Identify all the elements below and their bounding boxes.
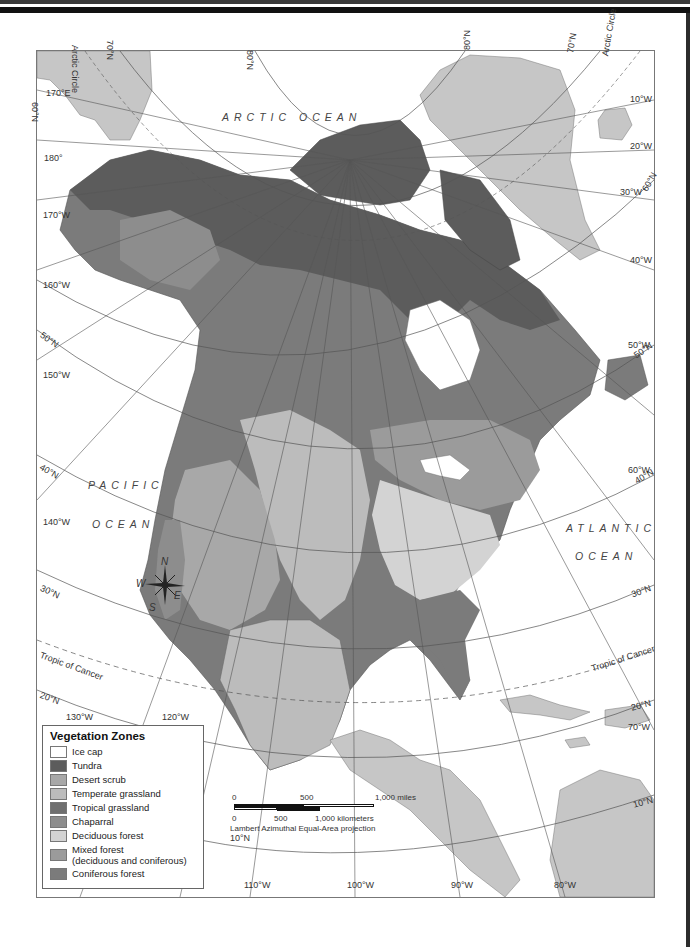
scale-miles-0: 0 [232, 793, 236, 802]
iceland-landmass [598, 108, 632, 140]
legend-item-deciduous-forest: Deciduous forest [50, 830, 196, 842]
graticule-label: 70°N [105, 40, 115, 60]
swatch-chaparral [50, 816, 67, 828]
legend-item-desert-scrub: Desert scrub [50, 774, 196, 786]
swatch-desert-scrub [50, 774, 67, 786]
legend-item-tundra: Tundra [50, 760, 196, 772]
compass-n: N [161, 556, 168, 567]
scale-bar: 0 500 1,000 miles 0 500 1,000 kilometers… [230, 793, 400, 843]
graticule-label: 150°W [43, 370, 70, 380]
graticule-label: 130°W [66, 712, 93, 722]
graticule-label: 70°W [628, 722, 650, 732]
atlantic-ocean-label-line1: ATLANTIC [566, 522, 656, 534]
legend-item-mixed-forest: Mixed forest(deciduous and coniferous) [50, 844, 196, 866]
swatch-mixed-forest [50, 849, 67, 861]
compass-w: W [136, 578, 145, 589]
graticule-label: 110°W [244, 880, 270, 890]
graticule-label: 40°W [630, 255, 652, 265]
legend-item-temperate-grassland: Temperate grassland [50, 788, 196, 800]
scale-bar-km [234, 807, 277, 810]
swatch-deciduous-forest [50, 830, 67, 842]
atlantic-ocean-label-line2: OCEAN [575, 550, 637, 562]
compass-s: S [149, 602, 156, 613]
arctic-ocean-label: ARCTIC OCEAN [222, 111, 361, 123]
scale-km-1000: 1,000 kilometers [315, 814, 374, 823]
legend-item-chaparral: Chaparral [50, 816, 196, 828]
graticule-label: 60°N [30, 102, 40, 122]
swatch-temperate-grassland [50, 788, 67, 800]
graticule-label: 140°W [43, 517, 70, 527]
scale-bar-km-2 [277, 807, 320, 811]
graticule-label: 30°W [620, 187, 642, 197]
graticule-label: 120°W [162, 712, 189, 722]
swatch-ice-cap [50, 746, 67, 758]
pacific-ocean-label-line1: PACIFIC [88, 479, 164, 491]
graticule-label: 80°N [462, 30, 472, 50]
swatch-tundra [50, 760, 67, 772]
pacific-ocean-label-line2: OCEAN [92, 518, 154, 530]
scale-miles-1000: 1,000 miles [375, 793, 416, 802]
south-america-landmass [550, 770, 654, 897]
scale-miles-500: 500 [300, 793, 313, 802]
legend-title: Vegetation Zones [50, 730, 196, 742]
graticule-label: 10°W [630, 94, 652, 104]
graticule-label: 90°W [451, 880, 473, 890]
legend-item-coniferous-forest: Coniferous forest [50, 868, 196, 880]
vegetation-legend: Vegetation Zones Ice cap Tundra Desert s… [42, 725, 204, 889]
compass-rose-icon [140, 560, 190, 610]
graticule-label: 170°E [46, 88, 71, 98]
swatch-tropical-grassland [50, 802, 67, 814]
swatch-coniferous-forest [50, 868, 67, 880]
scale-km-500: 500 [274, 814, 287, 823]
graticule-label: 80°W [554, 880, 576, 890]
graticule-label: 170°W [43, 210, 70, 220]
legend-item-tropical-grassland: Tropical grassland [50, 802, 196, 814]
graticule-label: Arctic Circle [70, 45, 80, 93]
graticule-label: 160°W [43, 280, 70, 290]
scale-km-0: 0 [232, 814, 236, 823]
legend-item-ice-cap: Ice cap [50, 746, 196, 758]
graticule-label: 80°N [245, 50, 255, 70]
graticule-label: 100°W [347, 880, 374, 890]
graticule-label: 180° [44, 153, 63, 163]
newfoundland-island [605, 355, 648, 400]
compass-e: E [174, 590, 181, 601]
cuba-island [500, 695, 590, 720]
graticule-label: 20°W [630, 141, 652, 151]
mexico-landmass [220, 620, 350, 770]
jamaica-island [565, 737, 590, 748]
projection-note: Lambert Azimuthal Equal-Area projection [230, 824, 375, 833]
